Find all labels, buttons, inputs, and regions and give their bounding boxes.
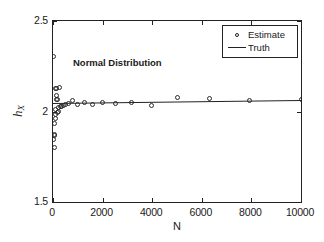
x-tick-label: 8000 bbox=[239, 206, 262, 218]
data-point bbox=[75, 102, 80, 107]
data-point bbox=[149, 103, 154, 108]
y-axis-label-symbol: h bbox=[10, 111, 25, 118]
data-point bbox=[247, 98, 252, 103]
y-tick-mark bbox=[297, 112, 301, 113]
legend-entry-truth: Truth bbox=[226, 41, 294, 54]
x-tick-label: 4000 bbox=[140, 206, 163, 218]
x-tick-label: 0 bbox=[49, 206, 55, 218]
x-tick-mark bbox=[202, 198, 203, 202]
data-point bbox=[82, 100, 87, 105]
data-point bbox=[53, 121, 57, 126]
y-tick-label: 2 bbox=[42, 105, 48, 117]
data-point bbox=[53, 137, 56, 142]
x-axis-label: N bbox=[173, 220, 181, 232]
y-tick-mark bbox=[53, 21, 57, 22]
legend-label-truth: Truth bbox=[248, 42, 270, 53]
data-point bbox=[53, 54, 56, 59]
data-point bbox=[53, 145, 57, 150]
x-tick-label: 2000 bbox=[90, 206, 113, 218]
circle-marker-icon bbox=[226, 33, 248, 37]
y-tick-label: 2.5 bbox=[34, 14, 48, 26]
y-tick-mark bbox=[297, 21, 301, 22]
data-point bbox=[207, 96, 212, 101]
figure-canvas: hX N 0200040006000800010000 1.522.5 Norm… bbox=[0, 0, 324, 242]
data-point bbox=[53, 116, 58, 121]
y-tick-mark bbox=[297, 202, 301, 203]
line-marker-icon bbox=[226, 47, 248, 48]
data-point bbox=[129, 100, 134, 105]
x-tick-label: 10000 bbox=[286, 206, 314, 218]
data-point bbox=[175, 95, 180, 100]
x-tick-mark bbox=[301, 21, 302, 25]
plot-annotation: Normal Distribution bbox=[73, 57, 162, 68]
x-tick-mark bbox=[103, 198, 104, 202]
legend-label-estimate: Estimate bbox=[248, 29, 285, 40]
y-tick-mark bbox=[53, 202, 57, 203]
legend-box: Estimate Truth bbox=[222, 25, 298, 58]
y-axis-label: hX bbox=[10, 105, 26, 117]
data-point bbox=[57, 85, 62, 90]
data-point bbox=[100, 100, 105, 105]
x-tick-label: 6000 bbox=[190, 206, 213, 218]
x-tick-mark bbox=[152, 21, 153, 25]
x-tick-mark bbox=[202, 21, 203, 25]
legend-entry-estimate: Estimate bbox=[226, 28, 294, 41]
x-tick-mark bbox=[103, 21, 104, 25]
plot-frame: Normal Distribution Estimate Truth bbox=[52, 20, 302, 203]
x-tick-mark bbox=[152, 198, 153, 202]
data-point bbox=[90, 102, 95, 107]
x-tick-mark bbox=[301, 198, 302, 202]
y-tick-mark bbox=[53, 112, 57, 113]
data-point bbox=[299, 97, 302, 102]
x-tick-mark bbox=[251, 198, 252, 202]
data-point bbox=[55, 97, 60, 102]
data-point bbox=[113, 101, 118, 106]
y-tick-label: 1.5 bbox=[34, 195, 48, 207]
